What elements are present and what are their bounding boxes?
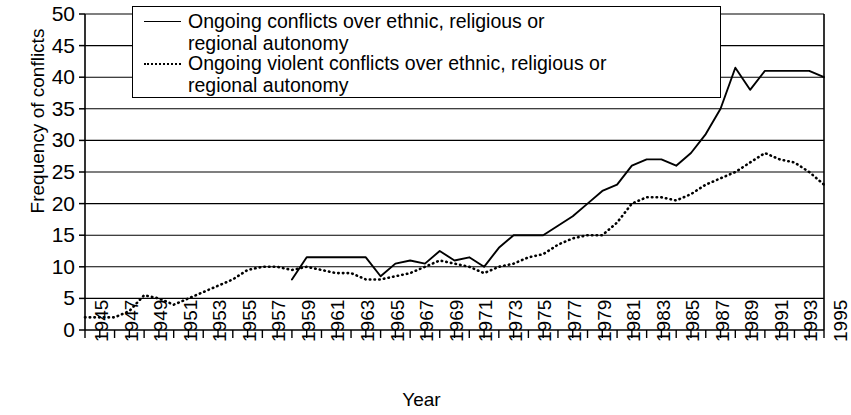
legend-label-line2: regional autonomy — [188, 74, 348, 96]
legend-label-ongoing-violent-conflicts: Ongoing violent conflicts over ethnic, r… — [188, 53, 606, 96]
legend-solid-line-icon — [141, 11, 183, 32]
legend-label-line1: Ongoing conflicts over ethnic, religious… — [188, 10, 545, 32]
chart-legend: Ongoing conflicts over ethnic, religious… — [132, 6, 721, 98]
legend-label-ongoing-conflicts: Ongoing conflicts over ethnic, religious… — [188, 11, 545, 54]
legend-label-line1: Ongoing violent conflicts over ethnic, r… — [188, 52, 606, 74]
series-line-1 — [292, 68, 824, 280]
legend-dotted-line-icon — [141, 53, 183, 74]
legend-label-line2: regional autonomy — [188, 32, 348, 54]
legend-entry-ongoing-violent-conflicts: Ongoing violent conflicts over ethnic, r… — [141, 53, 716, 96]
legend-entry-ongoing-conflicts: Ongoing conflicts over ethnic, religious… — [141, 11, 716, 54]
